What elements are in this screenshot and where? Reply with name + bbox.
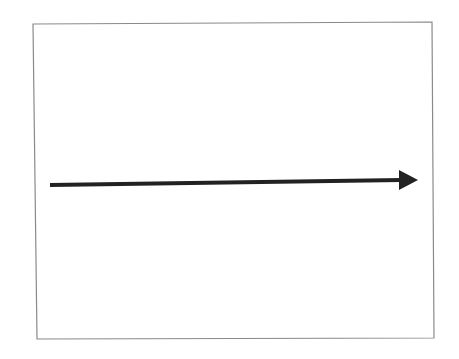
- diagram-canvas: [0, 0, 459, 359]
- diagram-svg: [0, 0, 459, 359]
